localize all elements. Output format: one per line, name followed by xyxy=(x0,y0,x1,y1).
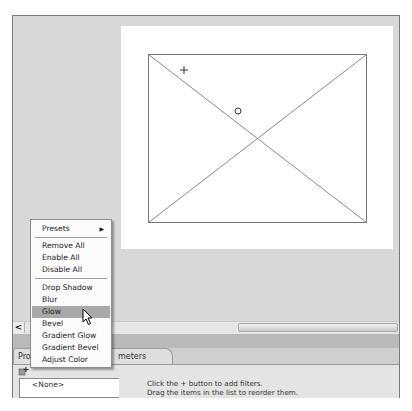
submenu-arrow-icon: ▶ xyxy=(99,223,104,235)
tab-parameters[interactable]: meters xyxy=(103,348,173,364)
menu-separator xyxy=(35,278,107,279)
filters-panel: <None> Click the + button to add filters… xyxy=(13,365,399,398)
menu-item-glow[interactable]: Glow xyxy=(32,306,110,318)
filter-list[interactable]: <None> xyxy=(19,378,119,398)
menu-item-blur[interactable]: Blur xyxy=(32,294,110,306)
menu-item-drop-shadow[interactable]: Drop Shadow xyxy=(32,282,110,294)
hint-line-1: Click the + button to add filters. xyxy=(147,379,298,388)
add-filter-icon xyxy=(18,366,30,377)
scroll-left-button[interactable]: < xyxy=(13,322,25,333)
menu-item-bevel[interactable]: Bevel xyxy=(32,318,110,330)
menu-item-gradient-bevel[interactable]: Gradient Bevel xyxy=(32,342,110,354)
filters-hint: Click the + button to add filters. Drag … xyxy=(147,379,298,397)
menu-item-label: Presets xyxy=(42,224,70,233)
menu-separator xyxy=(35,237,107,238)
menu-item-remove-all[interactable]: Remove All xyxy=(32,240,110,252)
hint-line-2: Drag the items in the list to reorder th… xyxy=(147,388,298,397)
movie-clip-placeholder xyxy=(121,26,393,249)
menu-item-presets[interactable]: Presets ▶ xyxy=(32,223,110,235)
menu-item-gradient-glow[interactable]: Gradient Glow xyxy=(32,330,110,342)
registration-plus-icon xyxy=(180,66,188,74)
add-filter-button[interactable] xyxy=(18,366,30,377)
scroll-thumb[interactable] xyxy=(238,323,398,332)
menu-item-enable-all[interactable]: Enable All xyxy=(32,252,110,264)
transform-point-icon xyxy=(235,108,241,114)
add-filter-menu: Presets ▶ Remove All Enable All Disable … xyxy=(30,219,112,368)
filter-list-item[interactable]: <None> xyxy=(32,380,64,389)
menu-item-adjust-color[interactable]: Adjust Color xyxy=(32,354,110,366)
stage-canvas[interactable] xyxy=(121,26,393,249)
menu-item-disable-all[interactable]: Disable All xyxy=(32,264,110,276)
mouse-pointer-icon xyxy=(82,308,94,326)
